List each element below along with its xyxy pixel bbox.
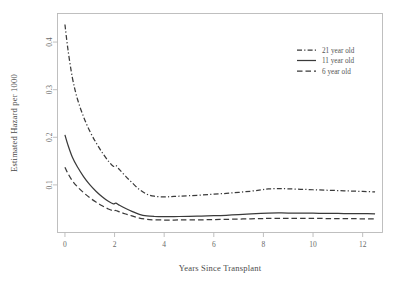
x-tick-label: 0 xyxy=(63,240,67,249)
x-axis: 024681012 xyxy=(63,233,367,249)
x-tick-label: 8 xyxy=(262,240,266,249)
y-tick-label: 0.4 xyxy=(45,37,54,47)
legend: 21 year old11 year old6 year old xyxy=(297,47,355,76)
series-line-6-year-old xyxy=(65,167,375,220)
x-tick-label: 12 xyxy=(359,240,367,249)
y-tick-label: 0.2 xyxy=(45,132,54,142)
series-line-11-year-old xyxy=(65,135,375,217)
legend-label-0: 21 year old xyxy=(322,47,355,55)
chart-page: 024681012Years Since Transplant0.10.20.3… xyxy=(0,0,405,286)
x-tick-label: 10 xyxy=(309,240,317,249)
x-axis-title: Years Since Transplant xyxy=(179,263,262,273)
y-axis: 0.10.20.30.4 xyxy=(45,37,57,189)
x-tick-label: 6 xyxy=(212,240,216,249)
y-tick-label: 0.3 xyxy=(45,85,54,95)
x-tick-label: 4 xyxy=(162,240,166,249)
y-tick-label: 0.1 xyxy=(45,180,54,190)
y-axis-title: Estimated Hazard per 1000 xyxy=(9,74,19,172)
legend-label-2: 6 year old xyxy=(322,68,351,76)
legend-label-1: 11 year old xyxy=(322,57,354,65)
hazard-line-chart: 024681012Years Since Transplant0.10.20.3… xyxy=(0,0,405,286)
x-tick-label: 2 xyxy=(113,240,117,249)
